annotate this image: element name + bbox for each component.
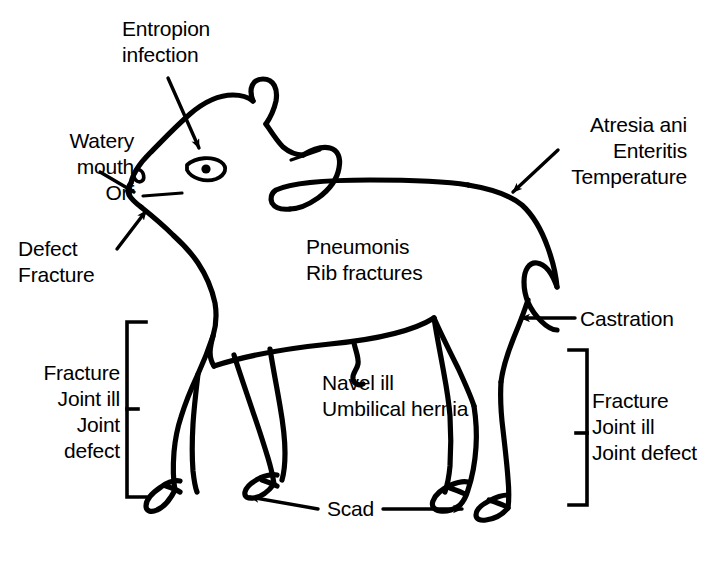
- label-watery-mouth-orf: Watery mouth Orf: [8, 128, 134, 206]
- fore-leg-near: [234, 355, 274, 484]
- arrow-scad-left: [250, 497, 318, 509]
- eye-pupil: [201, 164, 210, 173]
- tail-outline: [524, 263, 557, 330]
- hoof-line-3: [450, 488, 465, 494]
- label-hind-legs-fracture-joint-ill-joint-defect: Fracture Joint ill Joint defect: [592, 388, 697, 466]
- label-pneumonis-rib-fractures: Pneumonis Rib fractures: [306, 234, 422, 286]
- label-defect-fracture: Defect Fracture: [18, 236, 95, 288]
- label-atresia-ani-enteritis-temperature: Atresia ani Enteritis Temperature: [487, 112, 687, 190]
- ear-outline: [251, 79, 276, 124]
- label-entropion-infection: Entropion infection: [122, 16, 210, 68]
- hind-leg-far: [501, 382, 509, 508]
- bracket-right-legs: [569, 350, 587, 505]
- arrow-defect-fracture: [117, 211, 146, 249]
- diagram-page: Entropion infection Watery mouth Orf Def…: [0, 0, 717, 562]
- hoof-line-4: [489, 500, 505, 506]
- hoof-line-1: [166, 486, 180, 492]
- label-scad: Scad: [327, 496, 374, 522]
- mouth-line: [143, 193, 182, 196]
- label-front-legs-fracture-joint-ill-joint-defect: Fracture Joint ill Joint defect: [12, 360, 120, 464]
- label-castration: Castration: [580, 306, 674, 332]
- nostril: [134, 170, 144, 182]
- label-navel-ill-umbilical-hernia: Navel ill Umbilical hernia: [322, 370, 468, 422]
- throat-line: [141, 207, 216, 366]
- belly-line: [214, 318, 434, 366]
